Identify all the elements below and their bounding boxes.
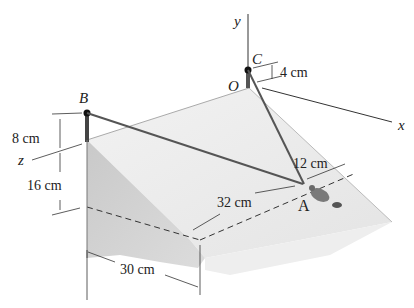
dim-30cm-arrow-right	[165, 275, 198, 287]
z-axis-label: z	[17, 152, 24, 168]
dim-16cm-ext-bot	[52, 208, 80, 215]
dim-32cm-label: 32 cm	[217, 195, 252, 210]
dim-4cm-label: 4 cm	[280, 65, 308, 80]
x-axis-label: x	[397, 117, 405, 133]
dim-8cm-ext-top	[52, 113, 82, 114]
statics-diagram: y x C O 4 cm B z 8 cm 16 cm 30 cm 32 cm …	[0, 0, 414, 308]
label-c: C	[252, 51, 263, 67]
label-o: O	[228, 78, 239, 94]
label-b: B	[79, 90, 88, 106]
z-axis-line	[32, 144, 82, 160]
y-axis-label: y	[232, 13, 241, 29]
dim-30cm-label: 30 cm	[120, 262, 155, 277]
x-axis	[262, 88, 392, 122]
b-pole	[85, 113, 89, 142]
dim-8cm-label: 8 cm	[12, 131, 40, 146]
label-a: A	[298, 197, 310, 214]
dim-4cm-ext-bot	[257, 76, 282, 82]
dim-12cm-label: 12 cm	[293, 156, 328, 171]
dim-16cm-label: 16 cm	[27, 178, 62, 193]
